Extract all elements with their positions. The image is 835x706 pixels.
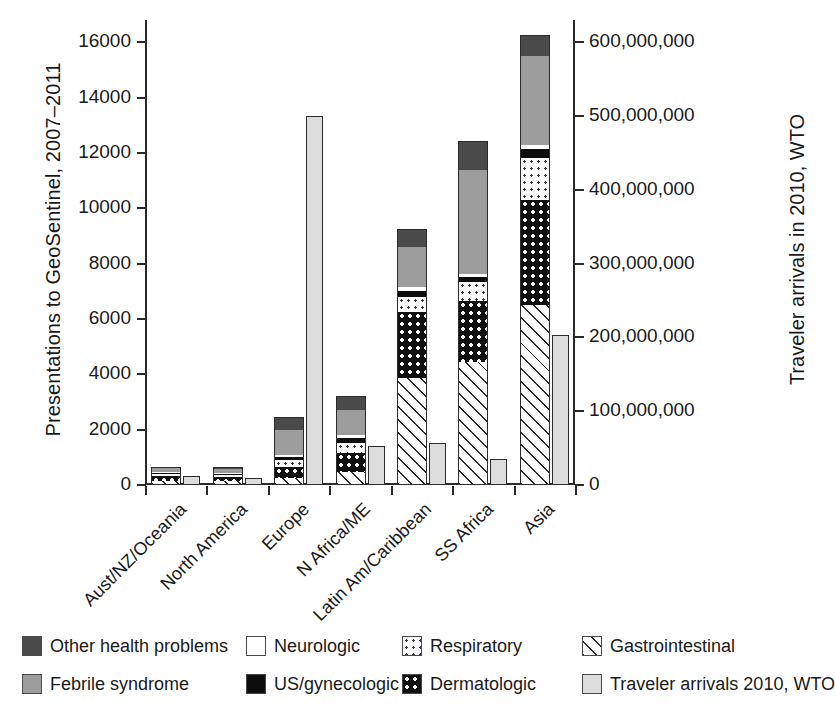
- legend-label: Dermatologic: [430, 674, 536, 694]
- y-tick-right: [575, 41, 584, 43]
- stacked-bar[interactable]: [520, 35, 550, 485]
- bar-segment-dermatologic: [337, 453, 365, 472]
- bar-group: [274, 20, 323, 485]
- stacked-bar[interactable]: [213, 467, 243, 485]
- bar-segment-us-gynecologic: [521, 149, 549, 158]
- bar-segment-neurologic: [398, 287, 426, 291]
- y-tick-label-left: 6000: [65, 307, 131, 329]
- y-tick-label-left: 16000: [65, 30, 131, 52]
- bar-group: [458, 20, 507, 485]
- bar-segment-neurologic: [459, 274, 487, 277]
- x-tick: [206, 486, 208, 495]
- bar-segment-dermatologic: [214, 477, 242, 481]
- y-tick-label-left: 4000: [65, 362, 131, 384]
- y-tick-label-left: 10000: [65, 196, 131, 218]
- bar-segment-respiratory: [214, 475, 242, 477]
- bar-segment-febrile-syndrome: [337, 410, 365, 435]
- y-tick-label-right: 200,000,000: [589, 325, 695, 347]
- bar-segment-neurologic: [275, 455, 303, 457]
- bar-segment-us-gynecologic: [398, 291, 426, 297]
- bar-segment-neurologic: [337, 435, 365, 438]
- y-tick-right: [575, 115, 584, 117]
- y-tick-label-left: 2000: [65, 418, 131, 440]
- bar-segment-other-health-problems: [275, 417, 303, 430]
- legend-item[interactable]: Neurologic: [246, 636, 360, 656]
- legend-item[interactable]: Respiratory: [402, 636, 522, 656]
- y-tick-label-left: 12000: [65, 141, 131, 163]
- bar-segment-respiratory: [459, 282, 487, 301]
- x-tick-label: North America: [124, 499, 252, 627]
- legend-item[interactable]: US/gynecologic: [246, 674, 399, 694]
- traveler-arrivals-bar[interactable]: [368, 446, 385, 485]
- y-tick-right: [575, 263, 584, 265]
- bar-segment-other-health-problems: [398, 229, 426, 247]
- legend-label: Traveler arrivals 2010, WTO: [610, 674, 835, 694]
- x-tick: [268, 486, 270, 495]
- bar-segment-gastrointestinal: [521, 305, 549, 484]
- swatch-us-gynecologic: [246, 674, 266, 694]
- bar-segment-us-gynecologic: [459, 277, 487, 282]
- bar-segment-respiratory: [275, 460, 303, 467]
- y-tick-label-left: 8000: [65, 252, 131, 274]
- bar-segment-dermatologic: [152, 476, 180, 481]
- legend-item[interactable]: Other health problems: [22, 636, 228, 656]
- legend-item[interactable]: Traveler arrivals 2010, WTO: [582, 674, 835, 694]
- legend-label: Gastrointestinal: [610, 636, 735, 656]
- bar-segment-dermatologic: [398, 312, 426, 378]
- legend-label: Febrile syndrome: [50, 674, 189, 694]
- plot-area: [145, 20, 575, 485]
- y-tick-right: [575, 189, 584, 191]
- y-tick-label-left: 0: [65, 473, 131, 495]
- swatch-respiratory: [402, 636, 422, 656]
- legend-row-1: Other health problemsNeurologicRespirato…: [22, 636, 812, 662]
- traveler-arrivals-bar[interactable]: [306, 116, 323, 485]
- traveler-arrivals-bar[interactable]: [429, 443, 446, 485]
- bar-segment-gastrointestinal: [459, 362, 487, 484]
- x-tick: [575, 486, 577, 495]
- swatch-febrile-syndrome: [22, 674, 42, 694]
- bar-segment-other-health-problems: [459, 141, 487, 170]
- bar-segment-us-gynecologic: [275, 457, 303, 460]
- bar-group: [213, 20, 262, 485]
- y-tick-label-right: 600,000,000: [589, 30, 695, 52]
- stacked-bar[interactable]: [458, 141, 488, 485]
- bar-segment-neurologic: [521, 145, 549, 149]
- y-tick-label-right: 100,000,000: [589, 399, 695, 421]
- bar-segment-febrile-syndrome: [521, 56, 549, 145]
- legend-item[interactable]: Dermatologic: [402, 674, 536, 694]
- y-axis-right-line: [573, 20, 575, 485]
- traveler-arrivals-bar[interactable]: [183, 476, 200, 485]
- stacked-bar[interactable]: [397, 229, 427, 485]
- stacked-bar[interactable]: [151, 467, 181, 485]
- bar-segment-other-health-problems: [521, 35, 549, 56]
- bar-group: [520, 20, 569, 485]
- stacked-bar[interactable]: [336, 396, 366, 485]
- bar-segment-us-gynecologic: [337, 438, 365, 444]
- x-tick: [452, 486, 454, 495]
- bar-segment-respiratory: [337, 443, 365, 452]
- legend-item[interactable]: Febrile syndrome: [22, 674, 189, 694]
- traveler-arrivals-bar[interactable]: [245, 478, 262, 485]
- stacked-bar[interactable]: [274, 417, 304, 485]
- bar-segment-other-health-problems: [152, 467, 180, 469]
- legend-label: US/gynecologic: [274, 674, 399, 694]
- y-tick-right: [575, 410, 584, 412]
- bar-segment-respiratory: [398, 297, 426, 313]
- traveler-arrivals-bar[interactable]: [552, 335, 569, 485]
- legend-item[interactable]: Gastrointestinal: [582, 636, 735, 656]
- x-tick-label: Asia: [431, 499, 559, 627]
- traveler-arrivals-bar[interactable]: [490, 459, 507, 485]
- x-tick: [145, 486, 147, 495]
- legend-label: Neurologic: [274, 636, 360, 656]
- bar-segment-respiratory: [152, 474, 180, 476]
- swatch-other-health-problems: [22, 636, 42, 656]
- y-tick-label-right: 0: [589, 473, 600, 495]
- bar-segment-gastrointestinal: [275, 478, 303, 484]
- swatch-dermatologic: [402, 674, 422, 694]
- bar-segment-febrile-syndrome: [214, 469, 242, 473]
- y-tick-label-right: 500,000,000: [589, 104, 695, 126]
- legend-label: Respiratory: [430, 636, 522, 656]
- bar-segment-dermatologic: [459, 301, 487, 362]
- y-tick-label-left: 14000: [65, 86, 131, 108]
